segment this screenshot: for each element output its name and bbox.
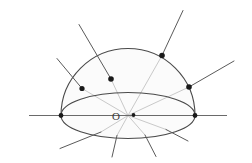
- equator-left-vertex: [59, 113, 64, 118]
- point-c: [159, 53, 165, 59]
- point-a: [79, 86, 84, 91]
- figure-canvas: O: [0, 0, 252, 163]
- point-d: [186, 84, 192, 90]
- equator-right-vertex: [193, 113, 198, 118]
- origin-label: O: [112, 110, 120, 122]
- origin-marker-dot: [132, 113, 136, 117]
- point-b: [108, 76, 114, 82]
- hemisphere-diagram: O: [0, 0, 252, 163]
